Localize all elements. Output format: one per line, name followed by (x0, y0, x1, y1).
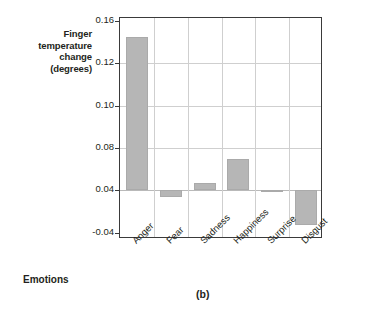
gridline-horizontal (120, 63, 321, 64)
x-axis-title: Emotions (23, 274, 69, 285)
y-axis-tick (115, 63, 120, 64)
y-axis-title-line-3: change (6, 51, 92, 63)
gridline-vertical (188, 18, 189, 237)
y-axis-tick (115, 21, 120, 22)
bar-fear (160, 190, 182, 196)
y-axis-title-line-2: temperature (6, 40, 92, 52)
y-axis-tick (115, 148, 120, 149)
y-axis-tick-label: 0.16 (96, 14, 115, 25)
bar-disgust (295, 190, 317, 224)
bar-sadness (194, 183, 216, 190)
y-axis-tick (115, 106, 120, 107)
plot-area (119, 17, 322, 238)
y-axis-tick (115, 233, 120, 234)
gridline-vertical (222, 18, 223, 237)
y-axis-title-line-1: Finger (6, 28, 92, 40)
gridline-vertical (154, 18, 155, 237)
panel-caption: (b) (196, 288, 209, 300)
y-axis-tick-label: 0.08 (96, 141, 115, 152)
x-axis-tick-labels: AngerFearSadnessHappinessSurpriseDisgust (119, 238, 322, 296)
y-axis-tick-label: -0.04 (92, 226, 114, 237)
bar-happiness (227, 159, 249, 191)
y-axis-tick-label: 0.10 (96, 99, 115, 110)
gridline-horizontal (120, 106, 321, 107)
y-axis-tick-label: 0.12 (96, 56, 115, 67)
bar-surprise (261, 190, 283, 192)
gridline-horizontal (120, 148, 321, 149)
figure-panel-b: Finger temperature change (degrees) 0.16… (0, 0, 366, 312)
zero-baseline (120, 190, 321, 191)
gridline-vertical (289, 18, 290, 237)
y-axis-tick-labels: 0.160.120.100.080.04-0.04 (84, 17, 114, 238)
y-axis-title-line-4: (degrees) (6, 63, 92, 75)
y-axis-title: Finger temperature change (degrees) (6, 28, 92, 74)
y-axis-tick-label: 0.04 (96, 183, 115, 194)
bar-anger (126, 37, 148, 190)
gridline-vertical (255, 18, 256, 237)
